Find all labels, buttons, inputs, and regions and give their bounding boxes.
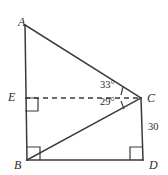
vertex-label-D: D [149, 159, 158, 171]
segment-AB [25, 25, 27, 160]
angle-label-29-degrees: 29° [100, 97, 115, 108]
vertex-label-B: B [14, 159, 21, 171]
vertex-label-A: A [18, 16, 25, 28]
right-angle-D [130, 147, 143, 160]
vertex-label-E: E [8, 91, 15, 103]
segment-CD [141, 98, 143, 160]
vertex-label-C: C [147, 92, 155, 104]
geometry-figure: A E B C D 33° 29° 30 [0, 0, 168, 175]
side-length-label-30: 30 [148, 122, 159, 133]
angle-label-33-degrees: 33° [100, 80, 115, 91]
segment-AC [25, 25, 141, 98]
angle-arc-33 [121, 87, 123, 95]
